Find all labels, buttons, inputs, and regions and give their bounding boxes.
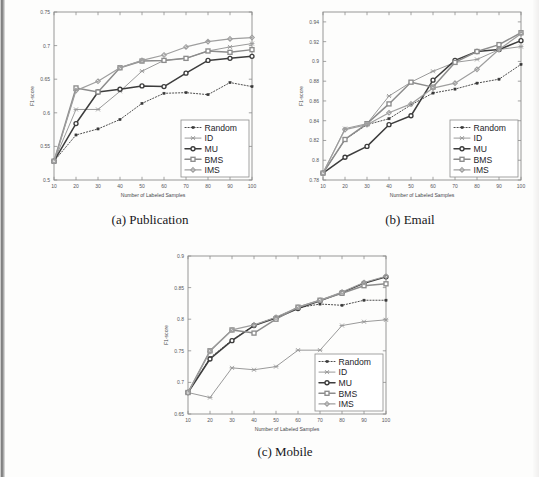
svg-text:40: 40 — [117, 183, 123, 189]
svg-text:0.65: 0.65 — [174, 411, 184, 417]
svg-text:90: 90 — [496, 183, 502, 189]
svg-text:Random: Random — [474, 123, 506, 133]
chart-email: 0.780.80.820.840.860.880.90.920.94102030… — [283, 2, 535, 207]
caption-publication: (a) Publication — [60, 212, 240, 228]
svg-text:F1-score: F1-score — [298, 86, 304, 106]
svg-text:20: 20 — [342, 183, 348, 189]
svg-text:40: 40 — [251, 417, 257, 423]
svg-text:F1-score: F1-score — [29, 86, 35, 106]
svg-text:Number of Labeled Samples: Number of Labeled Samples — [121, 192, 186, 198]
svg-text:0.75: 0.75 — [40, 9, 50, 15]
svg-text:90: 90 — [361, 417, 367, 423]
svg-text:0.88: 0.88 — [309, 78, 319, 84]
svg-text:10: 10 — [320, 183, 326, 189]
svg-text:Number of Labeled Samples: Number of Labeled Samples — [255, 426, 320, 432]
svg-text:0.78: 0.78 — [309, 177, 319, 183]
caption-email: (b) Email — [330, 212, 490, 228]
svg-text:70: 70 — [317, 417, 323, 423]
svg-text:MU: MU — [339, 378, 352, 388]
svg-text:0.75: 0.75 — [174, 348, 184, 354]
svg-text:80: 80 — [205, 183, 211, 189]
svg-text:Random: Random — [205, 123, 237, 133]
svg-text:100: 100 — [517, 183, 526, 189]
svg-text:50: 50 — [408, 183, 414, 189]
svg-text:IMS: IMS — [474, 165, 490, 175]
svg-text:60: 60 — [161, 183, 167, 189]
svg-text:0.85: 0.85 — [174, 285, 184, 291]
svg-text:0.92: 0.92 — [309, 39, 319, 45]
svg-text:0.8: 0.8 — [177, 316, 184, 322]
svg-text:30: 30 — [229, 417, 235, 423]
chart-mobile: 0.650.70.750.80.850.91020304050607080901… — [148, 248, 400, 440]
svg-text:0.8: 0.8 — [312, 157, 319, 163]
svg-text:MU: MU — [474, 144, 487, 154]
chart-mobile-svg: 0.650.70.750.80.850.91020304050607080901… — [148, 248, 400, 440]
svg-text:60: 60 — [430, 183, 436, 189]
svg-text:90: 90 — [227, 183, 233, 189]
svg-text:0.55: 0.55 — [40, 143, 50, 149]
svg-text:80: 80 — [474, 183, 480, 189]
svg-text:10: 10 — [185, 417, 191, 423]
svg-text:0.65: 0.65 — [40, 76, 50, 82]
svg-text:50: 50 — [139, 183, 145, 189]
svg-text:0.86: 0.86 — [309, 98, 319, 104]
svg-text:Number of Labeled Samples: Number of Labeled Samples — [390, 192, 455, 198]
svg-text:0.9: 0.9 — [312, 58, 319, 64]
svg-text:10: 10 — [51, 183, 57, 189]
svg-text:BMS: BMS — [339, 389, 358, 399]
chart-publication: 0.50.550.60.650.70.751020304050607080901… — [14, 2, 266, 207]
svg-text:20: 20 — [73, 183, 79, 189]
svg-text:BMS: BMS — [474, 155, 493, 165]
svg-text:ID: ID — [339, 367, 348, 377]
svg-text:50: 50 — [273, 417, 279, 423]
svg-text:100: 100 — [382, 417, 391, 423]
svg-text:20: 20 — [207, 417, 213, 423]
svg-text:BMS: BMS — [205, 155, 224, 165]
svg-text:60: 60 — [295, 417, 301, 423]
svg-text:0.82: 0.82 — [309, 137, 319, 143]
svg-text:0.94: 0.94 — [309, 19, 319, 25]
svg-text:ID: ID — [474, 133, 483, 143]
page-binding-edge — [0, 0, 5, 477]
svg-text:0.9: 0.9 — [177, 253, 184, 259]
svg-text:30: 30 — [364, 183, 370, 189]
svg-text:F1-score: F1-score — [163, 325, 169, 345]
svg-text:MU: MU — [205, 144, 218, 154]
caption-mobile: (c) Mobile — [205, 444, 365, 460]
svg-text:30: 30 — [95, 183, 101, 189]
svg-text:70: 70 — [452, 183, 458, 189]
chart-email-svg: 0.780.80.820.840.860.880.90.920.94102030… — [283, 2, 535, 207]
svg-text:80: 80 — [339, 417, 345, 423]
svg-text:0.7: 0.7 — [43, 43, 50, 49]
chart-publication-svg: 0.50.550.60.650.70.751020304050607080901… — [14, 2, 266, 207]
svg-text:0.6: 0.6 — [43, 110, 50, 116]
svg-text:100: 100 — [248, 183, 257, 189]
svg-text:0.7: 0.7 — [177, 379, 184, 385]
svg-text:0.84: 0.84 — [309, 118, 319, 124]
svg-text:40: 40 — [386, 183, 392, 189]
svg-text:ID: ID — [205, 133, 214, 143]
svg-text:IMS: IMS — [339, 399, 355, 409]
scanned-page: 0.50.550.60.650.70.751020304050607080901… — [0, 0, 539, 477]
svg-text:0.5: 0.5 — [43, 177, 50, 183]
svg-text:IMS: IMS — [205, 165, 221, 175]
svg-text:70: 70 — [183, 183, 189, 189]
svg-text:Random: Random — [339, 357, 371, 367]
